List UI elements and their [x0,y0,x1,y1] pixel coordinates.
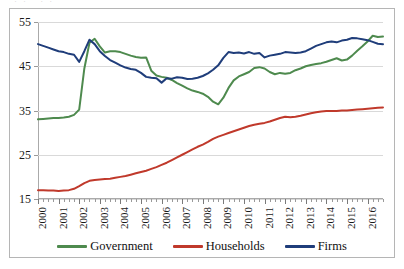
x-tick-minor [332,199,333,202]
x-tick-minor [213,199,214,202]
y-axis-label-55: 55 [19,16,31,28]
x-tick-minor [275,199,276,202]
x-tick-minor [259,199,260,202]
line-government [38,36,383,120]
x-tick-minor [48,199,49,202]
y-axis-label-35: 35 [19,105,31,117]
chart-legend: GovernmentHouseholdsFirms [9,238,395,254]
x-axis-label-2010: 2010 [242,207,253,229]
x-tick-minor [69,199,70,202]
x-tick-minor [89,199,90,202]
legend-label-government: Government [90,240,152,253]
x-tick-minor [321,199,322,202]
x-axis-label-2006: 2006 [160,207,171,229]
x-tick-minor [337,199,338,202]
x-tick-major [244,199,245,204]
x-tick-minor [378,199,379,202]
x-tick-minor [131,199,132,202]
x-tick-major [100,199,101,204]
series-lines [38,22,383,199]
x-tick-major [306,199,307,204]
x-tick-minor [187,199,188,202]
x-tick-minor [105,199,106,202]
x-axis-label-2015: 2015 [345,207,356,229]
x-tick-major [223,199,224,204]
x-tick-minor [177,199,178,202]
cropped-title-artifact: ·· ·· [14,0,74,6]
x-axis-label-2001: 2001 [57,207,68,229]
x-tick-minor [192,199,193,202]
x-tick-minor [234,199,235,202]
x-axis-label-2012: 2012 [284,207,295,229]
x-tick-minor [290,199,291,202]
x-axis-label-2003: 2003 [98,207,109,229]
x-tick-major [368,199,369,204]
x-tick-minor [198,199,199,202]
x-tick-minor [172,199,173,202]
x-axis-label-2004: 2004 [119,207,130,229]
x-tick-major [79,199,80,204]
x-tick-minor [208,199,209,202]
x-axis-label-2002: 2002 [78,207,89,229]
legend-swatch-government [57,245,87,248]
x-tick-minor [352,199,353,202]
x-tick-major [182,199,183,204]
x-tick-minor [146,199,147,202]
x-tick-minor [84,199,85,202]
x-axis-label-2000: 2000 [37,207,48,229]
x-tick-minor [151,199,152,202]
x-tick-minor [156,199,157,202]
x-tick-major [326,199,327,204]
x-tick-minor [383,199,384,202]
y-axis-label-25: 25 [19,149,31,161]
x-tick-minor [136,199,137,202]
x-tick-minor [311,199,312,202]
x-tick-major [347,199,348,204]
x-tick-minor [357,199,358,202]
x-tick-major [141,199,142,204]
x-tick-minor [373,199,374,202]
x-tick-major [285,199,286,204]
x-axis-label-2016: 2016 [366,207,377,229]
x-tick-minor [254,199,255,202]
x-axis-label-2011: 2011 [263,207,274,229]
legend-swatch-firms [285,245,315,248]
legend-label-households: Households [206,240,265,253]
x-axis-label-2008: 2008 [201,207,212,229]
x-tick-minor [280,199,281,202]
x-tick-minor [301,199,302,202]
line-households [38,107,383,191]
legend-item-government[interactable]: Government [57,240,152,253]
x-tick-minor [249,199,250,202]
x-tick-minor [342,199,343,202]
x-axis-label-2005: 2005 [139,207,150,229]
x-tick-minor [53,199,54,202]
x-tick-minor [126,199,127,202]
x-tick-minor [64,199,65,202]
legend-label-firms: Firms [318,240,347,253]
x-tick-major [162,199,163,204]
x-tick-major [120,199,121,204]
x-tick-major [265,199,266,204]
x-axis-label-2009: 2009 [222,207,233,229]
y-axis-label-45: 45 [19,60,31,72]
chart-figure: ·· ·· 1525354555 20002001200220032004200… [0,0,404,269]
legend-item-households[interactable]: Households [173,240,265,253]
x-tick-minor [229,199,230,202]
legend-item-firms[interactable]: Firms [285,240,347,253]
x-tick-minor [115,199,116,202]
x-tick-minor [295,199,296,202]
x-tick-minor [43,199,44,202]
x-tick-major [38,199,39,204]
x-axis-label-2007: 2007 [181,207,192,229]
x-tick-minor [74,199,75,202]
x-tick-minor [362,199,363,202]
x-axis-label-2014: 2014 [325,207,336,229]
x-tick-major [203,199,204,204]
legend-swatch-households [173,245,203,248]
x-tick-minor [218,199,219,202]
x-tick-major [59,199,60,204]
x-tick-minor [270,199,271,202]
y-axis-label-15: 15 [19,193,31,205]
x-tick-minor [239,199,240,202]
